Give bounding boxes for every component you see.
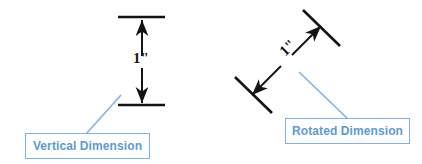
callout-vertical-dimension[interactable]: Vertical Dimension (25, 133, 150, 159)
vertical-leader-line (86, 95, 121, 134)
callout-rotated-dimension[interactable]: Rotated Dimension (285, 118, 410, 144)
rotated-extension-line-upper (303, 10, 340, 46)
callout-vertical-dimension-label: Vertical Dimension (33, 139, 142, 153)
rotated-leader-line (299, 72, 348, 119)
rotated-dimension-line-upper (292, 26, 321, 55)
dimension-illustration-canvas: 1" 1" Vertical Dimension Rotated Dimensi… (0, 0, 422, 164)
rotated-extension-line-lower (235, 77, 272, 113)
rotated-dimension-figure (235, 10, 348, 119)
vertical-dimension-figure (86, 17, 165, 134)
callout-rotated-dimension-label: Rotated Dimension (292, 124, 403, 138)
rotated-dimension-line-lower (252, 66, 281, 95)
vertical-dimension-value: 1" (133, 51, 149, 66)
